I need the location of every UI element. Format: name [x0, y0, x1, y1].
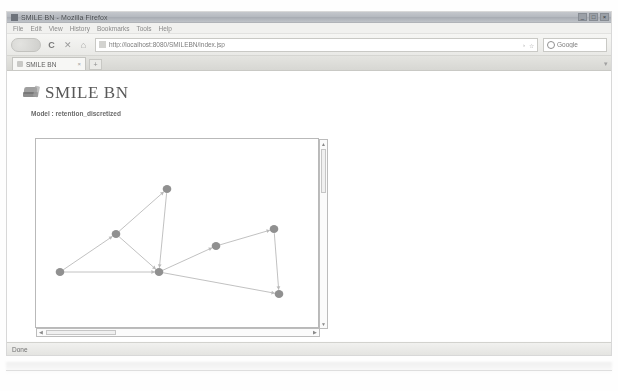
menu-tools[interactable]: Tools [136, 25, 151, 32]
reload-icon[interactable]: C [45, 38, 58, 51]
site-favicon-icon [99, 41, 106, 48]
menu-view[interactable]: View [49, 25, 63, 32]
vertical-scroll-thumb[interactable] [321, 149, 326, 193]
app-header: SMILE BN [7, 71, 611, 103]
bookmark-star-icon[interactable]: ☆ [529, 42, 534, 49]
url-bar-actions: › ☆ [523, 42, 534, 49]
menu-history[interactable]: History [70, 25, 90, 32]
network-graph-svg [36, 139, 318, 327]
tab-label: SMILE BN [26, 61, 56, 68]
new-tab-button[interactable]: + [89, 59, 102, 70]
menu-edit[interactable]: Edit [30, 25, 41, 32]
menu-bookmarks[interactable]: Bookmarks [97, 25, 130, 32]
model-label: Model : retention_discretized [31, 110, 611, 117]
tab-favicon-icon [17, 61, 23, 67]
stop-icon[interactable]: ✕ [61, 38, 74, 51]
network-node[interactable] [275, 290, 284, 298]
smile-bn-logo-icon [23, 86, 40, 100]
network-node[interactable] [155, 268, 164, 276]
menu-help[interactable]: Help [159, 25, 172, 32]
home-icon[interactable]: ⌂ [77, 38, 90, 51]
network-edge-arrowhead [277, 286, 281, 290]
network-edge [63, 236, 112, 269]
scroll-up-icon[interactable]: ▲ [320, 140, 327, 148]
window-titlebar: SMILE BN - Mozilla Firefox _ □ × [7, 12, 611, 23]
url-bar[interactable]: http://localhost:8080/SMILEBN/index.jsp … [95, 38, 538, 52]
network-graph-canvas[interactable] [36, 139, 318, 327]
graph-vertical-scrollbar[interactable]: ▲ ▼ [319, 139, 328, 329]
network-node[interactable] [270, 225, 279, 233]
network-edge [119, 237, 156, 269]
window-controls: _ □ × [578, 13, 609, 21]
navigation-toolbar: C ✕ ⌂ http://localhost:8080/SMILEBN/inde… [7, 34, 611, 56]
window-title: SMILE BN - Mozilla Firefox [21, 14, 108, 21]
scroll-down-icon[interactable]: ▼ [320, 320, 327, 328]
status-text: Done [12, 346, 28, 353]
horizontal-scroll-thumb[interactable] [46, 330, 116, 335]
firefox-icon [11, 14, 18, 21]
browser-status-bar: Done [7, 342, 611, 355]
network-node[interactable] [212, 242, 221, 250]
network-edge-arrowhead [271, 291, 275, 295]
network-edges [63, 192, 280, 295]
graph-horizontal-scrollbar[interactable]: ◀ ▶ [36, 328, 320, 337]
network-nodes [56, 185, 284, 298]
page-viewport: SMILE BN Model : retention_discretized ▲… [7, 71, 611, 341]
network-node[interactable] [163, 185, 172, 193]
network-edge-arrowhead [266, 229, 270, 233]
list-all-tabs-icon[interactable]: ▾ [604, 60, 608, 68]
page-title: SMILE BN [45, 83, 129, 103]
go-arrow-icon[interactable]: › [523, 42, 525, 48]
tab-smile-bn[interactable]: SMILE BN × [12, 57, 86, 70]
minimize-button[interactable]: _ [578, 13, 587, 21]
tab-strip: SMILE BN × + ▾ [7, 56, 611, 71]
scroll-right-icon[interactable]: ▶ [311, 329, 319, 336]
search-engine-label: Google [557, 41, 578, 48]
scroll-left-icon[interactable]: ◀ [37, 329, 45, 336]
network-edge-arrowhead [151, 270, 154, 274]
menu-file[interactable]: File [13, 25, 23, 32]
network-edge [159, 193, 166, 268]
screenshot-page: SMILE BN - Mozilla Firefox _ □ × File Ed… [0, 0, 618, 391]
network-edge [163, 248, 212, 271]
network-edge [220, 230, 270, 245]
network-node[interactable] [112, 230, 121, 238]
network-edge [119, 192, 164, 231]
url-text: http://localhost:8080/SMILEBN/index.jsp [109, 41, 225, 48]
search-icon [547, 41, 555, 49]
network-edge [274, 233, 278, 290]
search-box[interactable]: Google [543, 38, 607, 52]
network-edge-arrowhead [158, 264, 162, 268]
tab-close-icon[interactable]: × [77, 61, 81, 67]
network-node[interactable] [56, 268, 65, 276]
menu-bar: File Edit View History Bookmarks Tools H… [7, 23, 611, 34]
scan-artifact-band [6, 362, 612, 374]
network-edge [163, 273, 275, 293]
close-button[interactable]: × [600, 13, 609, 21]
bayesian-network-panel[interactable]: ▲ ▼ ◀ ▶ [35, 138, 319, 328]
maximize-button[interactable]: □ [589, 13, 598, 21]
scan-artifact-line [6, 370, 612, 371]
back-forward-button-group[interactable] [11, 38, 41, 52]
browser-window: SMILE BN - Mozilla Firefox _ □ × File Ed… [6, 11, 612, 356]
